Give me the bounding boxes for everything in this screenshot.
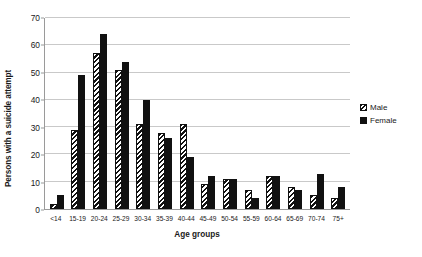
bar-male-25-29	[115, 70, 122, 209]
bar-male-55-59	[245, 190, 252, 209]
bar-group	[133, 18, 155, 209]
bar-female-70-74	[317, 174, 324, 209]
bar-group	[306, 18, 328, 209]
bar-male-20-24	[93, 53, 100, 209]
x-tick-label-6: 40-44	[175, 211, 197, 227]
bar-group	[327, 18, 349, 209]
bar-female-50-54	[230, 179, 237, 209]
x-axis-tick-labels: <1415-1920-2425-2930-3435-3940-4445-4950…	[44, 211, 350, 227]
x-tick-label-4: 30-34	[132, 211, 154, 227]
bar-group	[111, 18, 133, 209]
y-tick-label-1: 10	[31, 178, 40, 188]
bar-female-45-49	[208, 176, 215, 209]
x-tick-label-2: 20-24	[88, 211, 110, 227]
bar-female-75+	[338, 187, 345, 209]
bar-female-15-19	[78, 75, 85, 209]
bar-group	[68, 18, 90, 209]
bar-male-65-69	[288, 187, 295, 209]
y-tick-label-5: 50	[31, 68, 40, 78]
x-tick-label-13: 75+	[327, 211, 349, 227]
plot-area	[44, 18, 350, 210]
y-axis-tick-labels: 010203040506070	[18, 12, 44, 212]
bar-female-30-34	[143, 100, 150, 209]
x-tick-label-11: 65-69	[284, 211, 306, 227]
x-tick-label-10: 60-64	[262, 211, 284, 227]
y-tick-label-2: 20	[31, 150, 40, 160]
legend-label: Female	[370, 116, 397, 125]
bar-male-15-19	[71, 130, 78, 209]
x-tick-label-0: <14	[45, 211, 67, 227]
bar-female-60-64	[273, 176, 280, 209]
x-tick-label-9: 55-59	[240, 211, 262, 227]
bar-male-40-44	[180, 124, 187, 209]
x-axis-title: Age groups	[44, 230, 350, 239]
bar-male-50-54	[223, 179, 230, 209]
x-tick-label-5: 35-39	[154, 211, 176, 227]
y-tick-label-4: 40	[31, 95, 40, 105]
bar-male-<14	[50, 204, 57, 209]
legend-item-female[interactable]: Female	[360, 116, 420, 125]
bar-group	[262, 18, 284, 209]
bar-male-70-74	[310, 195, 317, 209]
legend-label: Male	[370, 103, 387, 112]
bar-female-<14	[57, 195, 64, 209]
bar-group	[176, 18, 198, 209]
chart-legend: MaleFemale	[360, 103, 420, 129]
bar-female-55-59	[252, 198, 259, 209]
bar-groups	[45, 18, 350, 209]
bar-male-45-49	[201, 184, 208, 209]
bar-group	[219, 18, 241, 209]
bar-group	[197, 18, 219, 209]
legend-swatch-female-icon	[360, 117, 367, 124]
bar-group	[89, 18, 111, 209]
bar-group	[154, 18, 176, 209]
x-tick-label-7: 45-49	[197, 211, 219, 227]
bar-female-25-29	[122, 62, 129, 209]
bar-female-35-39	[165, 138, 172, 209]
bar-male-75+	[331, 198, 338, 209]
x-tick-label-3: 25-29	[110, 211, 132, 227]
y-tick-label-3: 30	[31, 123, 40, 133]
bar-female-65-69	[295, 190, 302, 209]
legend-swatch-male-icon	[360, 104, 367, 111]
bar-male-60-64	[266, 176, 273, 209]
y-axis-title: Persons with a suicide attempt	[0, 0, 16, 257]
bar-group	[284, 18, 306, 209]
legend-item-male[interactable]: Male	[360, 103, 420, 112]
y-tick-label-6: 60	[31, 40, 40, 50]
y-tick-label-0: 0	[35, 205, 40, 215]
bar-male-35-39	[158, 133, 165, 209]
bar-female-40-44	[187, 157, 194, 209]
bar-chart-figure: Persons with a suicide attempt 010203040…	[0, 0, 422, 257]
bar-female-20-24	[100, 34, 107, 209]
x-tick-label-12: 70-74	[306, 211, 328, 227]
x-tick-label-1: 15-19	[67, 211, 89, 227]
x-tick-label-8: 50-54	[219, 211, 241, 227]
bar-group	[46, 18, 68, 209]
bar-male-30-34	[136, 124, 143, 209]
bar-group	[241, 18, 263, 209]
y-tick-label-7: 70	[31, 13, 40, 23]
